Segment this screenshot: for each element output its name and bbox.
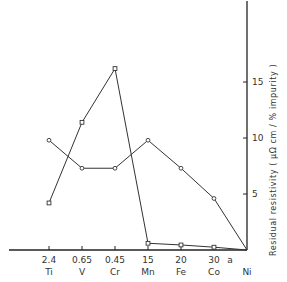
axes bbox=[9, 1, 247, 250]
y-tick-label: 5 bbox=[252, 189, 258, 199]
resistivity-chart: 2.4Ti0.65V0.45Cr15Mn20Fe30CoNia 51015 Re… bbox=[0, 0, 287, 282]
x-tick-value: 2.4 bbox=[42, 255, 57, 265]
x-tick-element: Ti bbox=[44, 267, 53, 277]
x-tick-element: V bbox=[79, 267, 86, 277]
square-marker bbox=[212, 245, 216, 249]
square-marker bbox=[179, 243, 183, 247]
extra-label-a: a bbox=[227, 255, 233, 265]
y-tick-label: 15 bbox=[252, 77, 263, 87]
y-tick-label: 10 bbox=[252, 133, 264, 143]
x-tick-value: 20 bbox=[175, 255, 187, 265]
circle-marker bbox=[212, 197, 216, 201]
x-tick-value: 0.65 bbox=[72, 255, 92, 265]
series-line-circle bbox=[49, 140, 247, 250]
circle-marker bbox=[80, 166, 84, 170]
x-tick-value: 15 bbox=[142, 255, 153, 265]
square-marker bbox=[80, 120, 84, 124]
square-marker bbox=[47, 201, 51, 205]
x-tick-element: Ni bbox=[242, 267, 251, 277]
series-line-square bbox=[49, 69, 247, 250]
x-tick-element: Fe bbox=[176, 267, 187, 277]
x-tick-element: Cr bbox=[110, 267, 120, 277]
circle-marker bbox=[113, 166, 117, 170]
x-tick-element: Co bbox=[208, 267, 220, 277]
x-tick-value: 0.45 bbox=[105, 255, 125, 265]
y-axis-label: Residual resistivity ( μΩ cm / % impurit… bbox=[269, 64, 278, 256]
y-ticks: 51015 bbox=[243, 77, 264, 199]
circle-marker bbox=[179, 166, 183, 170]
series-lines bbox=[49, 69, 247, 250]
x-tick-element: Mn bbox=[141, 267, 154, 277]
circle-marker bbox=[146, 138, 150, 142]
square-marker bbox=[146, 241, 150, 245]
square-marker bbox=[113, 67, 117, 71]
x-tick-value: 30 bbox=[208, 255, 220, 265]
circle-marker bbox=[47, 138, 51, 142]
